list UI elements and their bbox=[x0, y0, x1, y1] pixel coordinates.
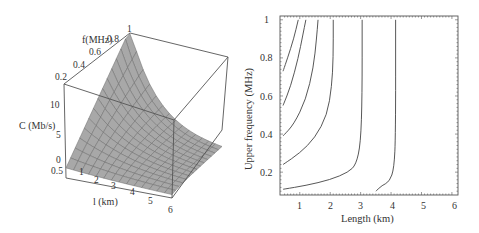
y-axis-label: Upper frequency (MHz) bbox=[243, 67, 255, 170]
x-axis-label: Length (km) bbox=[341, 213, 394, 225]
f-tick: 0.8 bbox=[107, 34, 119, 44]
f-tick: 0.2 bbox=[55, 72, 67, 82]
box-left-vertical-edge bbox=[64, 84, 66, 178]
x-tick: 3 bbox=[358, 200, 363, 211]
y-tick: 1 bbox=[264, 14, 269, 25]
plot-frame bbox=[280, 16, 458, 195]
l-tick: 1 bbox=[79, 167, 84, 177]
f-tick: 0.4 bbox=[73, 60, 85, 70]
surface-plot: f(MHz) 0.2 0.4 0.6 0.8 1 C (Mb/s) 10 5 0… bbox=[19, 24, 228, 215]
l-tick: 4 bbox=[130, 187, 135, 197]
box-right-vertical-edge bbox=[222, 57, 228, 130]
contour-line bbox=[283, 20, 318, 136]
l-tick: 2 bbox=[94, 175, 99, 185]
contour-line bbox=[283, 20, 362, 189]
x-tick: 4 bbox=[390, 200, 395, 211]
contour-line bbox=[283, 20, 298, 71]
y-tick: 0.8 bbox=[260, 52, 273, 63]
y-tick: 0.6 bbox=[260, 91, 273, 102]
x-tick: 5 bbox=[421, 200, 426, 211]
axis-ticks bbox=[280, 16, 458, 195]
y-tick: 0.2 bbox=[260, 167, 273, 178]
l-axis-label: l (km) bbox=[93, 196, 118, 208]
c-tick: 5 bbox=[56, 130, 61, 140]
f-tick: 0.6 bbox=[89, 47, 101, 57]
contour-plot: 1 0.8 0.6 0.4 0.2 1 2 3 4 5 6 Length (km… bbox=[243, 14, 458, 225]
f-tick: 1 bbox=[127, 24, 132, 34]
surface-mesh bbox=[66, 34, 222, 195]
c-axis-label: C (Mb/s) bbox=[19, 120, 55, 132]
c-tick: 10 bbox=[50, 100, 60, 110]
contour-lines bbox=[283, 20, 396, 191]
x-tick: 1 bbox=[297, 200, 302, 211]
contour-line bbox=[283, 20, 306, 106]
y-tick: 0.4 bbox=[260, 129, 273, 140]
contour-line bbox=[376, 20, 396, 191]
c-tick: 0 bbox=[56, 155, 61, 165]
figure: f(MHz) 0.2 0.4 0.6 0.8 1 C (Mb/s) 10 5 0… bbox=[0, 0, 479, 233]
x-tick: 6 bbox=[452, 200, 457, 211]
x-tick: 2 bbox=[328, 200, 333, 211]
box-top-right-edge bbox=[174, 57, 228, 120]
l-tick: 0.5 bbox=[51, 166, 63, 176]
contour-line bbox=[283, 20, 333, 165]
l-tick: 3 bbox=[111, 181, 116, 191]
l-tick: 5 bbox=[148, 196, 153, 206]
l-tick: 6 bbox=[168, 205, 173, 215]
